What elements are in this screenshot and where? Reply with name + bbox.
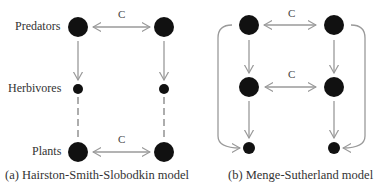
herbivore-node-right [159,84,169,94]
predator-node-right [154,17,174,37]
plant-node-left [68,142,88,162]
label-herbivores: Herbivores [8,81,61,96]
competition-label-a-top: C [118,8,125,20]
predator-node-left [68,17,88,37]
caption-b: (b) Menge-Sutherland model [228,168,373,183]
caption-a: (a) Hairston-Smith-Slobodkin model [5,168,189,183]
competition-label-b-middle: C [288,68,295,80]
plant-node-right [154,142,174,162]
panel-b-diagram [218,15,365,154]
label-predators: Predators [15,19,60,34]
competition-label-b-top: C [288,7,295,19]
label-plants: Plants [32,144,61,159]
competition-label-a-bottom: C [118,133,125,145]
herbivore-node-left [73,84,83,94]
